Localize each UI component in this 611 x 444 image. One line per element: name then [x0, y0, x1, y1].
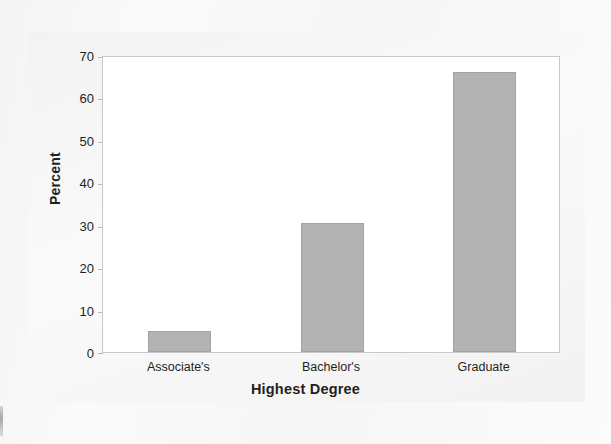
y-axis-tick-label: 50 — [54, 133, 94, 148]
x-axis-tick-label: Associate's — [147, 360, 210, 374]
x-axis-tick-label: Bachelor's — [302, 360, 360, 374]
plot-area — [102, 56, 560, 353]
y-axis-tick-label: 20 — [54, 261, 94, 276]
x-axis-tick-label: Graduate — [458, 360, 510, 374]
y-axis-tick-label: 0 — [54, 346, 94, 361]
y-axis-tick-mark — [98, 184, 103, 185]
bar — [301, 223, 364, 352]
bar — [453, 72, 516, 352]
y-axis-tick-mark — [98, 227, 103, 228]
y-axis-tick-label: 30 — [54, 218, 94, 233]
y-axis-tick-label: 10 — [54, 303, 94, 318]
y-axis-tick-mark — [98, 353, 103, 354]
y-axis-tick-mark — [98, 99, 103, 100]
y-axis-tick-mark — [98, 57, 103, 58]
bar — [148, 331, 211, 352]
y-axis-tick-mark — [98, 269, 103, 270]
y-axis-tick-label: 70 — [54, 49, 94, 64]
page-edge-artifact — [0, 406, 3, 436]
y-axis-tick-mark — [98, 312, 103, 313]
figure-container: 010203040506070 Percent Associate'sBache… — [0, 0, 611, 444]
y-axis-tick-mark — [98, 142, 103, 143]
x-axis-label: Highest Degree — [0, 381, 611, 397]
y-axis-label: Percent — [47, 152, 63, 205]
bars-layer — [103, 57, 559, 352]
y-axis-tick-label: 60 — [54, 91, 94, 106]
